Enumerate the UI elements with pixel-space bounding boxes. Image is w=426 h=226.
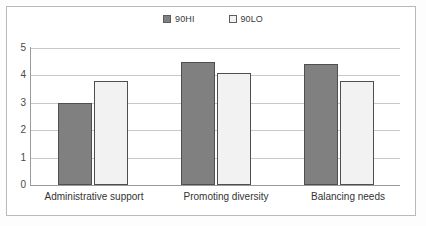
y-tick-0: 0	[4, 180, 26, 190]
gridline-5	[31, 48, 400, 49]
x-axis-baseline	[31, 185, 400, 186]
y-tick-1: 1	[4, 153, 26, 163]
y-tick-4: 4	[4, 70, 26, 80]
legend-swatch-filled-square-icon	[163, 15, 171, 23]
chart-figure: 90HI 90LO 5 4 3 2 1 0 Administrative sup…	[0, 0, 426, 226]
chart-legend: 90HI 90LO	[0, 11, 426, 27]
gridline-4	[31, 75, 400, 76]
plot-area	[31, 48, 400, 185]
bar-90hi-0	[58, 103, 92, 185]
bar-90hi-2	[304, 64, 338, 185]
bar-90lo-1	[217, 73, 251, 185]
y-tick-5: 5	[4, 43, 26, 53]
legend-swatch-outlined-square-icon	[229, 15, 237, 23]
bar-90lo-0	[94, 81, 128, 185]
y-tick-3: 3	[4, 98, 26, 108]
legend-label-90lo: 90LO	[241, 15, 263, 24]
legend-item-90hi: 90HI	[163, 15, 194, 24]
bar-90lo-2	[340, 81, 374, 185]
y-tick-2: 2	[4, 125, 26, 135]
bar-90hi-1	[181, 62, 215, 185]
legend-item-90lo: 90LO	[229, 15, 263, 24]
x-category-label-2: Balancing needs	[268, 192, 426, 202]
legend-label-90hi: 90HI	[175, 15, 194, 24]
